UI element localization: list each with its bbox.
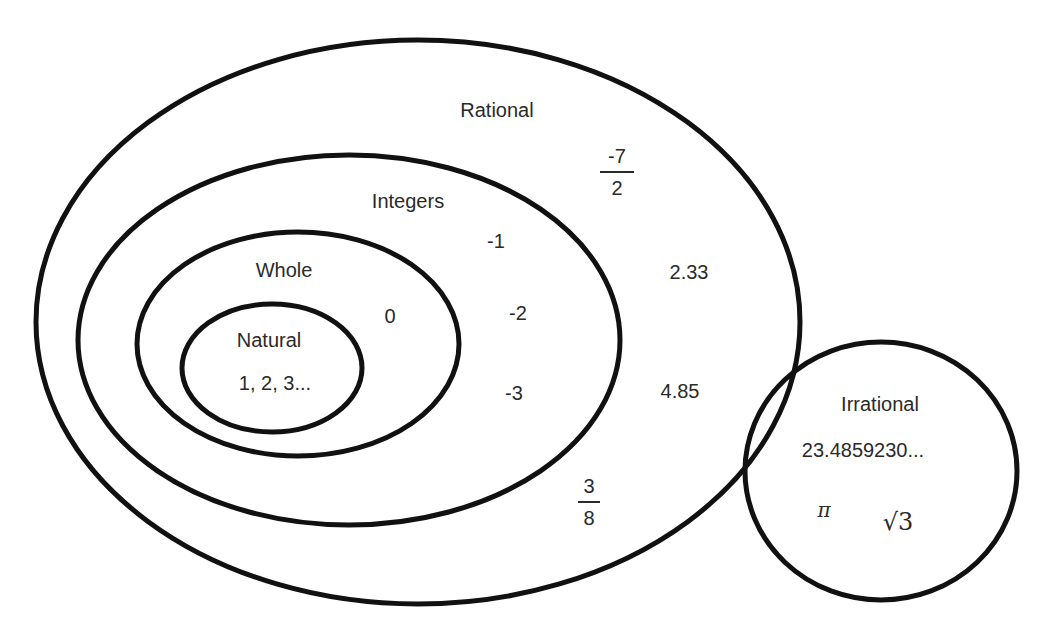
integer-member-neg2: -2 bbox=[509, 302, 527, 325]
numerator: 3 bbox=[583, 475, 594, 497]
whole-member-zero: 0 bbox=[384, 305, 395, 328]
whole-label: Whole bbox=[256, 259, 313, 282]
irrational-member-sqrt3: √3 bbox=[883, 508, 914, 536]
natural-members: 1, 2, 3... bbox=[239, 372, 311, 395]
irrational-label: Irrational bbox=[841, 393, 919, 416]
denominator: 2 bbox=[611, 177, 622, 199]
irrational-set-circle bbox=[745, 342, 1017, 600]
irrational-member-decimal: 23.4859230... bbox=[802, 439, 924, 462]
fraction-bar bbox=[600, 171, 634, 173]
rational-label: Rational bbox=[460, 99, 533, 122]
fraction-three-eighths: 3 8 bbox=[578, 473, 600, 531]
natural-set-ellipse bbox=[182, 304, 362, 432]
irrational-member-pi: π bbox=[817, 498, 830, 522]
integers-label: Integers bbox=[372, 190, 444, 213]
integer-member-neg1: -1 bbox=[487, 230, 505, 253]
denominator: 8 bbox=[583, 507, 594, 529]
natural-label: Natural bbox=[237, 329, 301, 352]
numerator: -7 bbox=[608, 145, 626, 167]
fraction-neg-seven-halves: -7 2 bbox=[600, 143, 634, 201]
integers-set-ellipse bbox=[78, 155, 620, 525]
rational-member-4-85: 4.85 bbox=[661, 380, 700, 403]
fraction-bar bbox=[578, 501, 600, 503]
integer-member-neg3: -3 bbox=[505, 382, 523, 405]
rational-member-2-33: 2.33 bbox=[670, 261, 709, 284]
